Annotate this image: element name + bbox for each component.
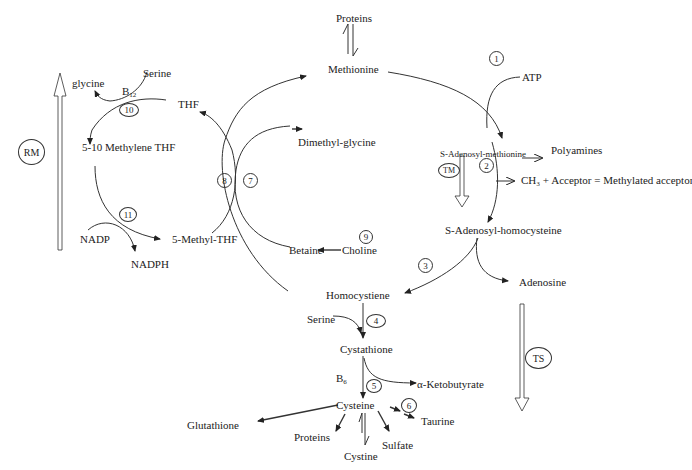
enzyme-6: 6 bbox=[401, 398, 417, 413]
enzyme-4: 4 bbox=[366, 314, 386, 328]
node-proteins-top: Proteins bbox=[336, 13, 372, 24]
node-serine-top: Serine bbox=[143, 68, 171, 79]
node-adenosine: Adenosine bbox=[519, 277, 566, 288]
node-serine-bottom: Serine bbox=[307, 314, 335, 325]
enzyme-7: 7 bbox=[243, 173, 258, 188]
enzyme-1: 1 bbox=[489, 51, 504, 66]
methionine-cycle-diagram: Proteins Methionine ATP S-Adenosyl-methi… bbox=[0, 0, 692, 470]
node-dimethylglycine: Dimethyl-glycine bbox=[298, 137, 376, 148]
node-nadp: NADP bbox=[80, 234, 110, 245]
node-polyamines: Polyamines bbox=[551, 145, 602, 156]
node-ketobutyrate: α-Ketobutyrate bbox=[417, 379, 484, 390]
node-b6: B6 bbox=[336, 373, 347, 386]
node-5-10-methylene-thf: 5-10 Methylene THF bbox=[82, 142, 175, 153]
node-methionine: Methionine bbox=[328, 64, 379, 75]
node-thf: THF bbox=[178, 99, 199, 110]
node-betaine: Betaine bbox=[289, 245, 323, 256]
node-5-methyl-thf: 5-Methyl-THF bbox=[172, 234, 237, 245]
node-cysteine: Cysteine bbox=[336, 400, 375, 411]
pathway-rm: RM bbox=[18, 139, 45, 165]
node-homocysteine: Homocystiene bbox=[326, 290, 390, 301]
enzyme-11: 11 bbox=[119, 207, 137, 222]
node-methylation: CH₃ + Acceptor = Methylated acceptor bbox=[521, 175, 692, 186]
node-sulfate: Sulfate bbox=[382, 440, 413, 451]
node-glycine: glycine bbox=[72, 78, 104, 89]
enzyme-3: 3 bbox=[418, 258, 433, 273]
node-cystine: Cystine bbox=[344, 451, 378, 462]
node-s-adenosyl-homocysteine: S-Adenosyl-homocysteine bbox=[445, 225, 562, 236]
node-b12: B12 bbox=[122, 86, 136, 99]
enzyme-9: 9 bbox=[359, 230, 373, 244]
enzyme-5: 5 bbox=[366, 379, 382, 393]
node-cystathione: Cystathione bbox=[340, 344, 393, 355]
node-taurine: Taurine bbox=[421, 416, 454, 427]
node-glutathione: Glutathione bbox=[187, 420, 239, 431]
enzyme-8: 8 bbox=[217, 173, 232, 188]
pathway-tm: TM bbox=[438, 163, 460, 178]
node-nadph: NADPH bbox=[131, 259, 169, 270]
node-proteins-bottom: Proteins bbox=[294, 432, 330, 443]
node-atp: ATP bbox=[522, 72, 542, 83]
enzyme-10: 10 bbox=[119, 103, 139, 117]
pathway-ts: TS bbox=[525, 347, 552, 369]
enzyme-2: 2 bbox=[479, 158, 494, 173]
node-choline: Choline bbox=[342, 245, 377, 256]
